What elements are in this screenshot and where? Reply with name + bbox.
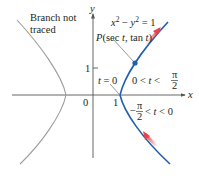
svg-text:−: − [130,105,136,116]
hyperbola-diagram: y x 0 1 1 Branch not traced x2 − y2 = 1 … [0,0,199,176]
svg-text:0 < t <: 0 < t < [132,75,160,86]
svg-text:2: 2 [137,111,142,122]
equation-label: x2 − y2 = 1 [110,15,155,28]
upper-range-label: 0 < t < π 2 [132,69,178,91]
lower-range-label: − π 2 < t < 0 [130,100,173,122]
svg-text:< t < 0: < t < 0 [145,106,173,117]
svg-text:π: π [137,100,143,111]
untraced-branch [17,20,66,164]
y-tick-label-1: 1 [85,63,90,74]
branch-note-line2: traced [30,24,56,35]
svg-text:2: 2 [172,80,177,91]
y-axis-label: y [89,3,95,14]
svg-text:π: π [172,69,178,80]
point-p-label: P(sec t, tan t) [95,32,153,44]
t-zero-label: t = 0 [98,75,117,86]
origin-label: 0 [83,97,88,108]
branch-note-line1: Branch not [30,12,76,23]
x-axis-label: x [187,89,193,100]
x-tick-label-1: 1 [113,97,118,108]
point-p-marker [132,60,137,65]
